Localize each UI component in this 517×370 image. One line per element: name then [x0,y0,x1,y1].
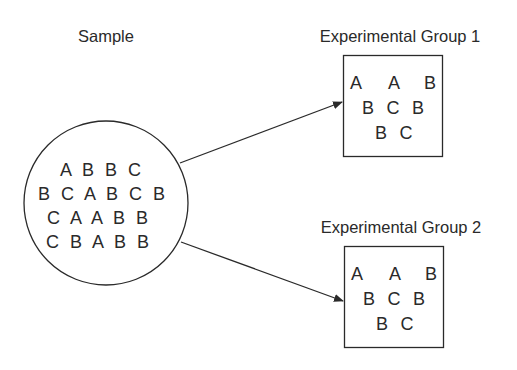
group-letter: A [350,73,362,93]
group-letter: C [387,98,400,118]
group-letter: B [413,289,425,309]
group-letter: B [375,123,387,143]
random-assignment-diagram: Sample A B B C B C A B C B C A A B B C B… [0,0,517,370]
sample-row: B C A B C B [38,184,168,204]
group-letter: C [400,123,413,143]
group-letter: B [425,264,437,284]
sample-row: C B A B B [46,232,152,252]
group-2-title: Experimental Group 2 [321,218,482,236]
group-letter: B [424,73,436,93]
sample-row: A B B C [60,160,144,180]
arrow-to-group-2 [181,242,343,301]
group-letter: B [376,314,388,334]
group-letter: A [388,73,400,93]
sample-title: Sample [78,27,134,45]
group-letter: B [362,98,374,118]
group-letter: C [401,314,414,334]
sample-row: C A A B B [47,208,151,228]
group-letter: C [388,289,401,309]
group-letter: A [389,264,401,284]
group-letter: B [412,98,424,118]
group-2-letters: AABBCBBC [351,264,437,334]
group-1-letters: AABBCBBC [350,73,436,143]
group-letter: B [363,289,375,309]
arrow-to-group-1 [180,102,342,163]
group-1-title: Experimental Group 1 [320,27,481,45]
group-letter: A [351,264,363,284]
